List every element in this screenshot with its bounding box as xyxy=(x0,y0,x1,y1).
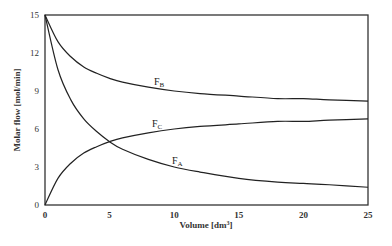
x-tick-label: 25 xyxy=(364,210,374,220)
x-axis-ticks: 0510152025 xyxy=(43,210,373,220)
x-tick-label: 5 xyxy=(107,210,112,220)
x-tick-label: 20 xyxy=(299,210,309,220)
label-fb: FB xyxy=(154,76,165,89)
chart: 03691215 0510152025 Volume [dm3] Molar f… xyxy=(0,0,392,246)
y-tick-label: 3 xyxy=(35,162,40,172)
curve-fb xyxy=(45,15,368,101)
y-axis-ticks: 03691215 xyxy=(30,10,40,210)
series-curves xyxy=(45,15,368,205)
label-fc: FC xyxy=(152,118,163,131)
plot-frame xyxy=(45,15,368,205)
x-axis-label: Volume [dm3] xyxy=(180,220,233,230)
y-tick-label: 15 xyxy=(30,10,40,20)
curve-fa xyxy=(45,15,368,187)
x-tick-label: 10 xyxy=(170,210,180,220)
y-tick-label: 6 xyxy=(35,124,40,134)
y-axis-label: Molar flow [mol/min] xyxy=(12,69,22,152)
x-tick-label: 15 xyxy=(234,210,244,220)
x-tick-label: 0 xyxy=(43,210,48,220)
curve-fc xyxy=(45,119,368,205)
label-fa: FA xyxy=(172,155,183,168)
y-tick-label: 12 xyxy=(30,48,39,58)
y-tick-label: 0 xyxy=(35,200,40,210)
y-tick-label: 9 xyxy=(35,86,40,96)
